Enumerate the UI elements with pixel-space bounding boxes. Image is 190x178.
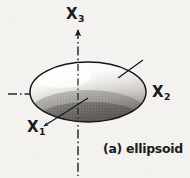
figure-caption: (a) ellipsoid [103, 141, 183, 156]
axis-label-x3: X3 [66, 7, 84, 22]
axis-label-x1: X1 [27, 120, 45, 135]
axis-label-x3-letter: X [66, 5, 77, 23]
axis-label-x1-subscript: 1 [39, 126, 45, 137]
axis-label-x2: X2 [152, 85, 170, 100]
axis-label-x3-subscript: 3 [78, 13, 84, 24]
axis-label-x1-letter: X [27, 118, 38, 136]
figure-ellipsoid: X3 X2 X1 (a) ellipsoid [0, 0, 190, 178]
axis-label-x2-letter: X [152, 83, 163, 101]
axis-label-x2-subscript: 2 [164, 91, 170, 102]
